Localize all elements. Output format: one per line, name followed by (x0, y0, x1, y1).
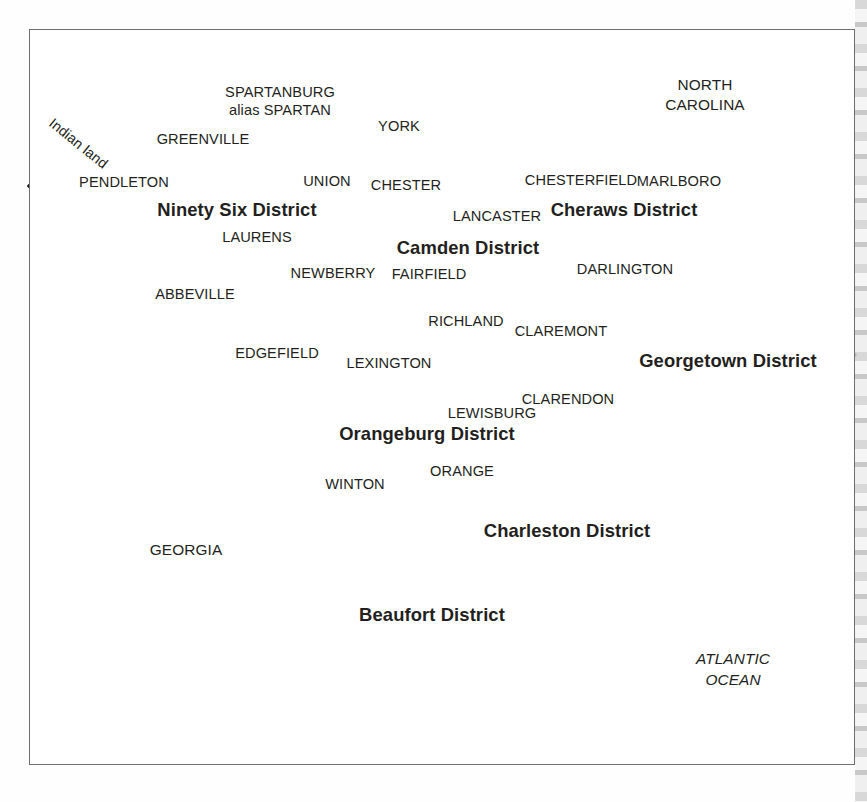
county-label-pendleton: PENDLETON (79, 174, 169, 190)
county-label-laurens: LAURENS (222, 229, 292, 245)
county-label-marlboro: MARLBORO (637, 173, 721, 189)
district-label-charleston: Charleston District (484, 521, 650, 542)
map-page: Ninety Six District Camden District Cher… (0, 0, 867, 802)
district-label-georgetown: Georgetown District (639, 351, 817, 372)
region-label-georgia: GEORGIA (150, 541, 223, 558)
county-label-lexington: LEXINGTON (347, 355, 432, 371)
county-label-york: YORK (378, 118, 420, 134)
county-label-edgefield: EDGEFIELD (235, 345, 319, 361)
county-label-newberry: NEWBERRY (291, 265, 376, 281)
district-label-ninety-six: Ninety Six District (157, 200, 316, 221)
county-label-fairfield: FAIRFIELD (392, 266, 467, 282)
county-label-claremont: CLAREMONT (515, 323, 608, 339)
region-label-atlantic-ocean-line1: ATLANTIC (696, 650, 770, 667)
county-label-chester: CHESTER (371, 177, 441, 193)
district-label-camden: Camden District (397, 238, 540, 259)
county-label-spartanburg: SPARTANBURG (225, 84, 335, 100)
county-label-greenville: GREENVILLE (157, 131, 250, 147)
county-label-chesterfield: CHESTERFIELD (525, 172, 637, 188)
region-label-atlantic-ocean-line2: OCEAN (705, 671, 760, 688)
county-label-spartanburg-alias: alias SPARTAN (229, 102, 331, 118)
district-label-beaufort: Beaufort District (359, 605, 505, 626)
scan-artifact-edge (855, 0, 867, 802)
region-label-north-carolina-line1: NORTH (678, 76, 733, 93)
district-label-cheraws: Cheraws District (551, 200, 698, 221)
county-label-darlington: DARLINGTON (577, 261, 673, 277)
county-label-orange: ORANGE (430, 463, 494, 479)
county-label-richland: RICHLAND (428, 313, 503, 329)
district-label-orangeburg: Orangeburg District (339, 424, 515, 445)
region-label-north-carolina-line2: CAROLINA (665, 96, 744, 113)
county-label-lewisburg: LEWISBURG (448, 405, 536, 421)
county-label-union: UNION (303, 173, 351, 189)
county-label-abbeville: ABBEVILLE (155, 286, 235, 302)
county-label-winton: WINTON (325, 476, 385, 492)
county-label-lancaster: LANCASTER (453, 208, 541, 224)
